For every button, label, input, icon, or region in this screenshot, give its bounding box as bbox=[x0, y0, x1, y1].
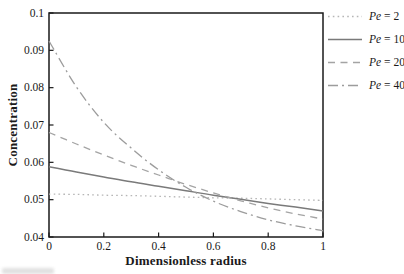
legend-line-sample-solid bbox=[328, 36, 362, 43]
plot-frame bbox=[49, 13, 323, 237]
legend-label: Pe = 10 bbox=[369, 33, 404, 45]
legend-label-italic: Pe bbox=[369, 10, 381, 22]
y-tick-label: 0.08 bbox=[24, 81, 44, 93]
legend-line-sample-dashed bbox=[328, 59, 362, 66]
y-tick-label: 0.04 bbox=[24, 231, 44, 243]
curve-pe=40 bbox=[49, 41, 323, 231]
x-tick-label: 1 bbox=[320, 240, 326, 252]
legend-entry: Pe = 20 bbox=[328, 55, 404, 69]
x-tick-label: 0 bbox=[46, 240, 52, 252]
legend-line-sample-dotted bbox=[328, 13, 362, 20]
legend-entry: Pe = 10 bbox=[328, 32, 404, 46]
legend-label-italic: Pe bbox=[369, 56, 381, 68]
y-tick-label: 0.1 bbox=[30, 7, 45, 19]
legend-label: Pe = 20 bbox=[369, 56, 404, 68]
legend-line-sample-dashdot bbox=[328, 82, 362, 89]
legend-label-rest: = 20 bbox=[381, 56, 404, 68]
legend-entry: Pe = 2 bbox=[328, 9, 404, 23]
x-tick-label: 0.8 bbox=[261, 240, 276, 252]
curve-pe=2 bbox=[49, 194, 323, 200]
curve-pe=20 bbox=[49, 133, 323, 220]
curve-pe=10 bbox=[49, 167, 323, 211]
y-tick-label: 0.07 bbox=[24, 119, 44, 131]
x-tick-label: 0.2 bbox=[97, 240, 112, 252]
legend-label-rest: = 2 bbox=[381, 10, 399, 22]
legend-entry: Pe = 40 bbox=[328, 78, 404, 92]
y-tick-label: 0.06 bbox=[24, 156, 44, 168]
y-tick-label: 0.05 bbox=[24, 193, 44, 205]
legend-label: Pe = 2 bbox=[369, 10, 399, 22]
y-tick-label: 0.09 bbox=[24, 44, 44, 56]
legend: Pe = 2 Pe = 10 Pe = 20 Pe = 40 bbox=[328, 9, 404, 101]
legend-label: Pe = 40 bbox=[369, 79, 404, 91]
legend-label-italic: Pe bbox=[369, 79, 381, 91]
legend-label-rest: = 10 bbox=[381, 33, 404, 45]
chart-figure: 00.20.40.60.810.040.050.060.070.080.090.… bbox=[0, 0, 404, 274]
x-tick-label: 0.4 bbox=[151, 240, 166, 252]
legend-label-italic: Pe bbox=[369, 33, 381, 45]
legend-label-rest: = 40 bbox=[381, 79, 404, 91]
x-axis-title: Dimensionless radius bbox=[49, 253, 323, 269]
y-axis-title: Concentration bbox=[5, 84, 21, 167]
x-tick-label: 0.6 bbox=[206, 240, 221, 252]
cropped-caption-fragment bbox=[2, 268, 54, 274]
